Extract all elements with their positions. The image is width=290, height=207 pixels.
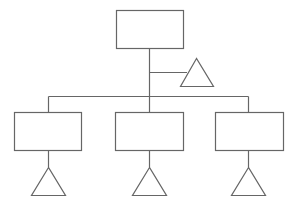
child-rectangle-2: [116, 113, 184, 151]
child-triangle-1: [32, 168, 66, 196]
child-node-3: [216, 113, 284, 196]
root-node: [117, 11, 184, 49]
child-rectangle-1: [15, 113, 82, 151]
org-tree-diagram: [0, 0, 290, 207]
child-triangle-2: [133, 168, 167, 196]
child-triangle-3: [232, 168, 266, 196]
child-rectangle-3: [216, 113, 284, 151]
root-rectangle: [117, 11, 184, 49]
